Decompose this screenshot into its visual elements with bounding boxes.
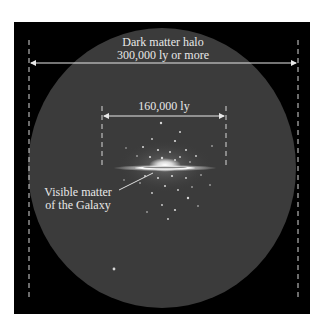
visible-matter-label-line1: Visible matter [44,185,112,199]
star-cluster [161,204,163,206]
star-cluster [209,184,211,186]
star-cluster [174,209,176,211]
star-cluster [169,151,171,153]
diagram: Dark matter halo 300,000 ly or more 160,… [0,0,325,336]
star-cluster [187,197,189,199]
star-cluster [177,189,179,191]
star-cluster [174,140,176,142]
star-cluster [146,211,148,213]
star-cluster [151,192,153,194]
halo-label-line2: 300,000 ly or more [117,48,209,62]
star-cluster [185,177,187,179]
star-cluster [113,268,116,271]
star-cluster [161,157,163,159]
star-cluster [142,146,144,148]
star-cluster [160,122,162,124]
star-cluster [179,156,181,158]
star-cluster [136,155,138,157]
star-cluster [157,149,159,151]
star-cluster [125,147,126,148]
star-cluster [151,138,153,140]
star-cluster [195,155,197,157]
star-cluster [171,175,173,177]
disk-label: 160,000 ly [138,99,189,113]
star-cluster [197,205,199,207]
star-cluster [149,156,151,158]
star-cluster [200,174,202,176]
star-cluster [167,218,169,220]
visible-matter-label-line2: of the Galaxy [45,198,110,212]
halo-label-line1: Dark matter halo [122,35,203,49]
star-cluster [174,159,176,161]
galaxy-bulge [149,158,181,172]
galaxy-dust-lane [143,167,187,169]
star-cluster [179,131,181,133]
star-cluster [157,177,159,179]
star-cluster [185,149,187,151]
star-cluster [191,186,193,188]
star-cluster [211,145,213,147]
star-cluster [123,179,124,180]
star-cluster [189,161,191,163]
star-cluster [139,182,141,184]
star-cluster [164,185,166,187]
